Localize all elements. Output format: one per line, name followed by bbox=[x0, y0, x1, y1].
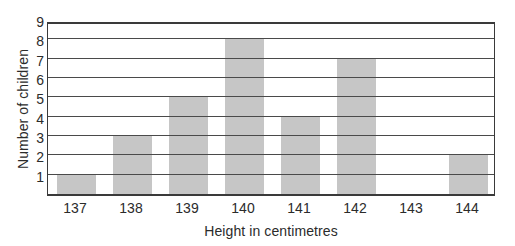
bar-144 bbox=[449, 155, 488, 194]
y-axis-tick-labels: 123456789 bbox=[26, 22, 44, 196]
x-tick-label: 142 bbox=[327, 199, 383, 217]
gridline-3 bbox=[48, 135, 494, 136]
bar-series bbox=[48, 24, 494, 194]
y-tick-label: 2 bbox=[26, 150, 44, 164]
gridline-5 bbox=[48, 96, 494, 97]
plot-area bbox=[47, 22, 495, 196]
y-tick-label: 7 bbox=[26, 54, 44, 68]
x-tick-label: 143 bbox=[383, 199, 439, 217]
y-tick-label: 6 bbox=[26, 73, 44, 87]
y-tick-label: 4 bbox=[26, 112, 44, 126]
bar-137 bbox=[57, 175, 96, 194]
x-tick-label: 139 bbox=[159, 199, 215, 217]
y-tick-label: 5 bbox=[26, 92, 44, 106]
bar-140 bbox=[225, 39, 264, 194]
x-axis-title: Height in centimetres bbox=[47, 221, 495, 241]
x-tick-label: 141 bbox=[271, 199, 327, 217]
y-tick-label: 8 bbox=[26, 34, 44, 48]
x-tick-label: 138 bbox=[103, 199, 159, 217]
y-tick-label: 1 bbox=[26, 170, 44, 184]
y-tick-label: 9 bbox=[26, 15, 44, 29]
bar-chart-figure: Number of children 123456789 13713813914… bbox=[0, 0, 515, 246]
gridline-6 bbox=[48, 77, 494, 78]
gridline-2 bbox=[48, 154, 494, 155]
x-tick-label: 140 bbox=[215, 199, 271, 217]
gridline-4 bbox=[48, 116, 494, 117]
x-tick-label: 144 bbox=[439, 199, 495, 217]
gridline-7 bbox=[48, 58, 494, 59]
gridline-8 bbox=[48, 38, 494, 39]
gridline-1 bbox=[48, 174, 494, 175]
bar-138 bbox=[113, 136, 152, 194]
y-tick-label: 3 bbox=[26, 131, 44, 145]
x-axis-tick-labels: 137138139140141142143144 bbox=[47, 199, 495, 217]
x-tick-label: 137 bbox=[47, 199, 103, 217]
bar-139 bbox=[169, 97, 208, 194]
